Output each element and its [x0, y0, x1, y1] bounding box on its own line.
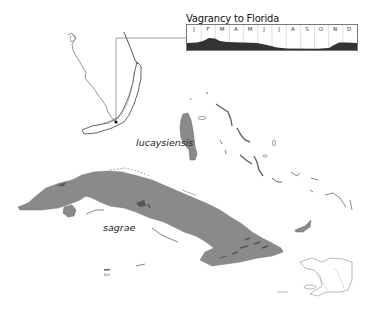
month-label: M [215, 26, 229, 32]
month-label: A [229, 26, 243, 32]
vagrancy-chart: J F M A M J J A S O N D [186, 24, 358, 51]
scale-label: km [104, 272, 110, 277]
month-label: S [300, 26, 314, 32]
label-sagrae: sagrae [103, 222, 135, 233]
florida-keys-range [82, 62, 141, 134]
month-label: J [187, 26, 201, 32]
month-label: N [328, 26, 342, 32]
leader-line [116, 38, 186, 122]
month-label: M [243, 26, 257, 32]
month-label: D [342, 26, 356, 32]
label-lucaysiensis: lucaysiensis [136, 137, 193, 148]
cuba-range [18, 171, 283, 266]
florida-coastline [68, 33, 116, 122]
month-label: J [272, 26, 286, 32]
hispaniola-coastline [300, 258, 352, 296]
month-label: J [257, 26, 271, 32]
month-label: F [201, 26, 215, 32]
month-label: A [286, 26, 300, 32]
florida-east-coast [124, 32, 138, 64]
month-label: O [314, 26, 328, 32]
isle-of-youth [63, 205, 76, 217]
inset-title: Vagrancy to Florida [186, 13, 279, 24]
